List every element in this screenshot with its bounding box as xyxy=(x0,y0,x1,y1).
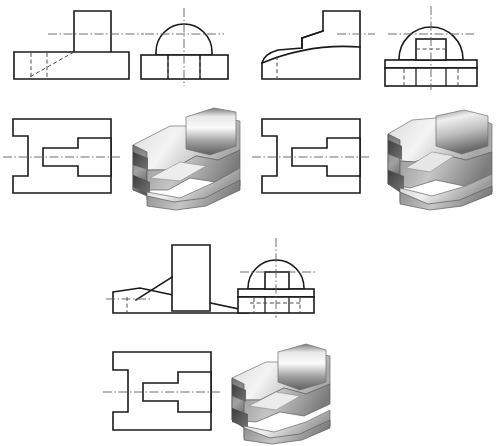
pictorial-2 xyxy=(388,110,492,210)
drawing-sheet: Group 1 — L-bracket with domed rib Group… xyxy=(0,0,498,446)
view-1-front xyxy=(14,11,144,79)
view-5-front xyxy=(106,245,248,313)
view-4-top xyxy=(252,119,369,193)
pictorial-1 xyxy=(133,108,240,210)
view-2-side xyxy=(385,6,477,90)
view-5-side xyxy=(238,238,316,318)
view-2-front xyxy=(262,11,375,79)
view-1-side xyxy=(141,8,228,86)
view-6-top xyxy=(103,352,220,430)
engineering-drawing-canvas xyxy=(0,0,498,446)
view-3-top xyxy=(3,119,120,193)
pictorial-3 xyxy=(232,344,330,444)
